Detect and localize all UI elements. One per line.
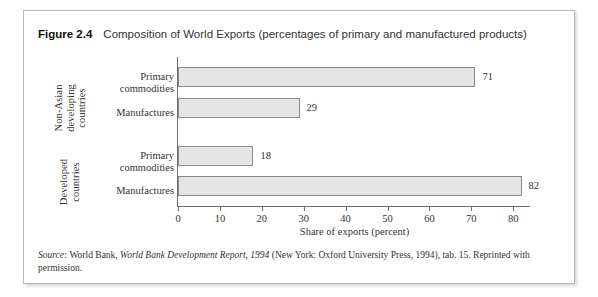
x-axis-tick-label: 80	[501, 212, 525, 225]
source-note: Source: World Bank, World Bank Developme…	[38, 249, 558, 274]
category-label-line: Manufactures	[116, 185, 174, 197]
category-label-line: Manufactures	[116, 107, 174, 119]
x-axis-title: Share of exports (percent)	[178, 226, 531, 237]
bar-chart: Non-Asian developing countries Developed…	[24, 11, 576, 285]
category-label-line: Primary	[120, 71, 174, 83]
x-axis-tick	[262, 207, 263, 211]
source-title-italic: World Bank Development Report, 1994	[120, 250, 269, 260]
x-axis-tick	[304, 207, 305, 211]
group-label-line: countries	[70, 134, 82, 230]
bar-value-label: 71	[482, 67, 493, 87]
bar-primary-commodities-developed	[178, 146, 253, 166]
x-axis-tick	[388, 207, 389, 211]
category-label-primary-commodities-non-asian: Primary commodities	[120, 71, 174, 94]
x-axis-tick	[513, 207, 514, 211]
category-label-line: Primary	[120, 150, 174, 162]
x-axis-tick-label: 60	[417, 212, 441, 225]
x-axis-tick-label: 40	[334, 212, 358, 225]
x-axis-tick	[471, 207, 472, 211]
x-axis-tick-label: 20	[250, 212, 274, 225]
category-label-primary-commodities-developed: Primary commodities	[120, 150, 174, 173]
category-label-manufactures-developed: Manufactures	[116, 185, 174, 197]
group-label-line: Developed	[58, 134, 70, 230]
x-axis-tick	[220, 207, 221, 211]
category-label-manufactures-non-asian: Manufactures	[116, 107, 174, 119]
source-prefix: Source:	[38, 250, 67, 260]
x-axis-tick-label: 30	[292, 212, 316, 225]
group-label-developed-countries: Developed countries	[58, 134, 88, 230]
category-label-line: commodities	[120, 162, 174, 174]
x-axis-tick	[346, 207, 347, 211]
x-axis-tick	[429, 207, 430, 211]
bar-manufactures-developed	[178, 176, 522, 196]
bar-primary-commodities-non-asian	[178, 67, 475, 87]
x-axis-tick-label: 50	[376, 212, 400, 225]
x-axis-tick-label: 10	[208, 212, 232, 225]
x-axis-tick	[178, 207, 179, 211]
x-axis-line	[177, 206, 530, 207]
figure-panel: Figure 2.4Composition of World Exports (…	[23, 10, 575, 284]
x-axis-tick-label: 70	[459, 212, 483, 225]
x-axis-tick-label: 0	[166, 212, 190, 225]
bar-value-label: 82	[529, 176, 540, 196]
bar-value-label: 29	[307, 98, 318, 118]
bar-value-label: 18	[260, 146, 271, 166]
category-label-line: commodities	[120, 83, 174, 95]
source-text-before: World Bank,	[67, 250, 120, 260]
bar-manufactures-non-asian	[178, 98, 300, 118]
